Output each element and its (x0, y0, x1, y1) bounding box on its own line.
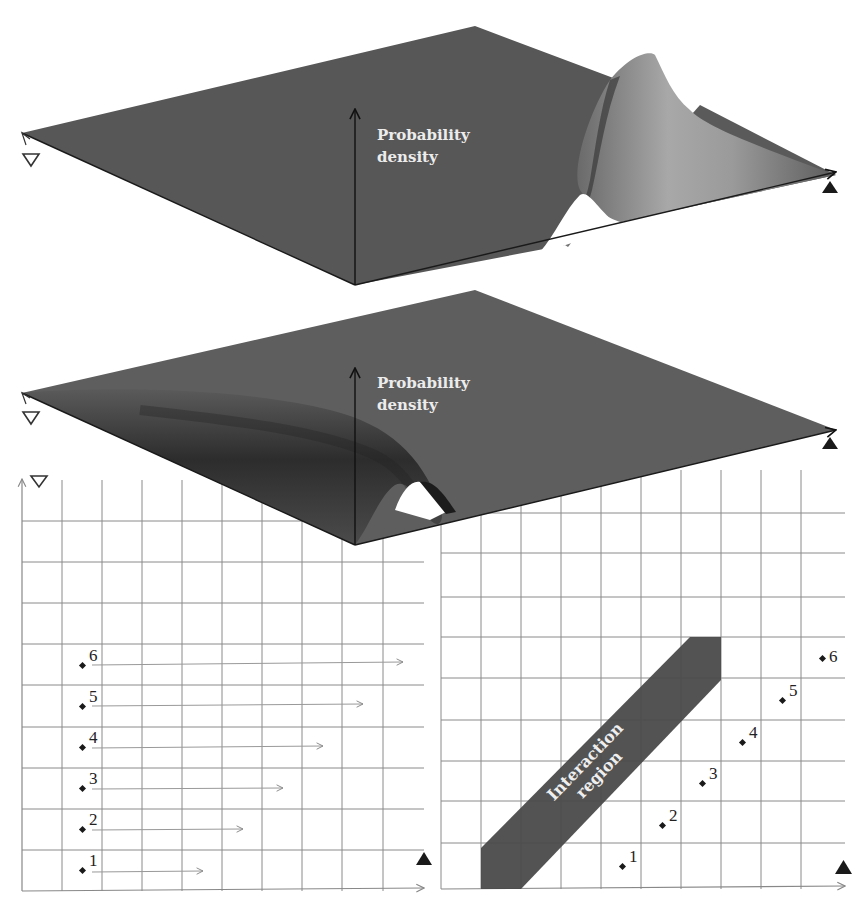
left-point-4: 4 (79, 728, 323, 751)
svg-text:Probability: Probability (377, 126, 471, 144)
filled-triangle-up-icon (835, 860, 852, 874)
svg-text:6: 6 (89, 646, 98, 665)
svg-text:4: 4 (749, 723, 758, 742)
svg-text:2: 2 (669, 806, 678, 825)
left-point-1: 1 (79, 851, 203, 874)
svg-text:5: 5 (89, 687, 98, 706)
right-point-1: 1 (619, 847, 638, 870)
left-point-3: 3 (79, 769, 283, 792)
svg-text:2: 2 (89, 810, 98, 829)
svg-text:3: 3 (89, 769, 98, 788)
svg-text:density: density (377, 148, 439, 166)
svg-text:1: 1 (629, 847, 638, 866)
svg-text:4: 4 (89, 728, 98, 747)
top-probability-surface: Probability density (22, 26, 838, 285)
left-grid-x-axis (22, 888, 424, 891)
filled-triangle-up-icon (416, 852, 432, 865)
svg-text:5: 5 (789, 681, 798, 700)
left-point-2: 2 (79, 810, 243, 833)
left-point-5: 5 (79, 687, 363, 710)
open-triangle-down-icon (23, 154, 39, 166)
svg-text:3: 3 (709, 764, 718, 783)
figure-canvas: 1 2 3 4 5 6 (0, 0, 863, 912)
open-triangle-down-icon (31, 476, 47, 487)
left-point-6: 6 (79, 646, 403, 669)
filled-triangle-up-icon (822, 437, 838, 449)
filled-triangle-up-icon (822, 181, 838, 193)
right-point-6: 6 (819, 647, 838, 666)
open-triangle-down-icon (23, 412, 39, 424)
right-grid-lines (441, 470, 845, 889)
svg-text:6: 6 (829, 647, 838, 666)
svg-text:density: density (377, 396, 439, 414)
svg-text:Probability: Probability (377, 374, 471, 392)
right-point-3: 3 (699, 764, 718, 787)
right-grid-panel: Interaction region 1 2 3 4 5 6 (441, 470, 852, 889)
svg-text:1: 1 (89, 851, 98, 870)
right-point-2: 2 (659, 806, 678, 829)
middle-probability-surface: Probability density (22, 290, 838, 545)
right-point-4: 4 (739, 723, 758, 746)
right-point-5: 5 (779, 681, 798, 704)
